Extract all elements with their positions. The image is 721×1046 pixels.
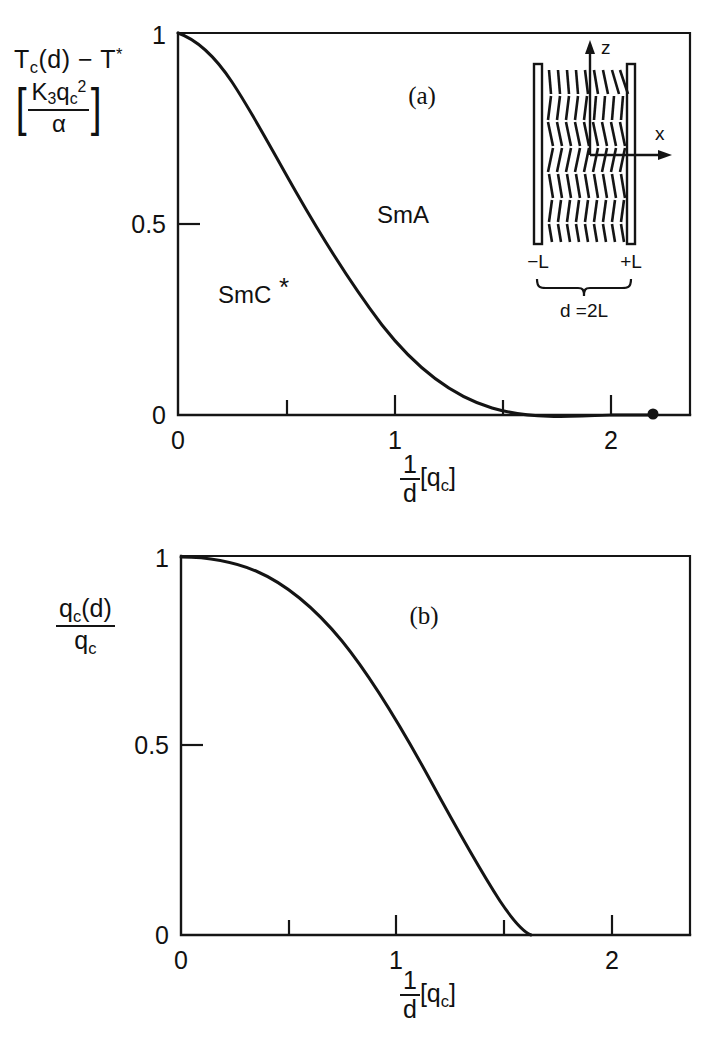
inset-brace [537,279,631,296]
fraction-numerator: 1 [400,452,420,480]
k-subscript: 3 [47,91,56,108]
qc-units-b: [qc] [420,979,456,1007]
panel-a-ylabel-0: 0 [152,401,166,429]
qc-den-subscript: c [88,639,96,657]
inset-wall-left [534,64,542,244]
critical-point-dot [648,409,659,420]
qc-num-subscript: c [73,607,81,625]
panel-a-xlabel-1: 1 [388,426,402,454]
panel-b-ylabel-0.5: 0.5 [134,731,169,759]
panel-b-tag: (b) [409,602,438,630]
tc-rest: (d) − T [39,45,116,73]
panel-b-ylabel-1: 1 [155,544,169,572]
phase-label-smc-star: SmC * [218,272,289,308]
inset-label-plus-L: +L [620,251,642,272]
inset-label-minus-L: −L [527,251,549,272]
panel-a-ylabel-1: 1 [152,21,166,49]
units-close: ] [449,463,456,491]
panel-b-xlabel-2: 2 [605,946,619,974]
units-subscript: c [441,475,449,493]
tc-subscript: c [30,58,39,76]
bracket-right: ] [91,81,102,133]
tc-symbol: T [14,45,30,73]
panel-b-curve [181,557,531,935]
inset-x-label: x [655,123,665,144]
qc-ratio-denominator: qc [56,627,115,656]
panel-a-y-axis-units: [K3qc2α] [14,79,123,135]
units-open-b: [q [420,979,441,1007]
panel-a-y-axis-label: Tc(d) − T* [K3qc2α] [14,46,123,136]
phase-label-smc-star-glyph: * [279,272,289,302]
qc-num-rest: (d) [81,594,112,622]
figure-two-panel-phase-diagram: 1 0.5 0 0 1 2 (a) SmA SmC * [0,0,721,1046]
bracket-left: [ [16,81,27,133]
panel-a-ylabel-0.5: 0.5 [131,210,166,238]
phase-label-sma: SmA [377,201,429,228]
units-fraction: K3qc2α [28,79,89,135]
qc-num-symbol: q [59,594,73,622]
fraction-numerator-b: 1 [400,968,420,996]
inset-z-label: z [601,37,611,58]
panel-b-xlabel-0: 0 [174,946,188,974]
fraction-denominator: d [400,480,420,506]
units-numerator: K3qc2 [28,79,89,110]
qc-ratio-fraction: qc(d) qc [56,596,115,656]
panel-a-xlabel-2: 2 [604,426,618,454]
one-over-d-fraction: 1d [400,452,420,506]
q-symbol: q [56,78,69,105]
units-close-b: ] [449,979,456,1007]
panel-a-x-axis-label: 1d[qc] [400,452,456,506]
smectic-cell-inset: z x −L +L d =2L [527,37,672,321]
k-symbol: K [31,78,47,105]
x-arrowhead-icon [658,150,672,160]
units-subscript-b: c [441,991,449,1009]
panel-a-y-axis-numerator: Tc(d) − T* [14,46,123,75]
units-denominator: α [28,111,89,136]
qc-den-symbol: q [74,626,88,654]
panel-b-y-axis-label: qc(d) qc [56,596,115,656]
q-superscript: 2 [78,78,87,95]
panel-b-x-axis-label: 1d[qc] [400,968,456,1022]
panel-a-xlabel-0: 0 [171,426,185,454]
panel-a-tag: (a) [408,82,436,110]
phase-label-smc-text: SmC [218,281,271,308]
inset-thickness-label: d =2L [560,300,608,321]
z-arrowhead-icon [585,40,595,54]
qc-ratio-numerator: qc(d) [56,596,115,627]
units-open: [q [420,463,441,491]
t-star: * [116,45,123,63]
fraction-denominator-b: d [400,996,420,1022]
q-subscript: c [70,91,78,108]
qc-units: [qc] [420,463,456,491]
one-over-d-fraction-b: 1d [400,968,420,1022]
panel-b-ylabel-0: 0 [155,921,169,949]
